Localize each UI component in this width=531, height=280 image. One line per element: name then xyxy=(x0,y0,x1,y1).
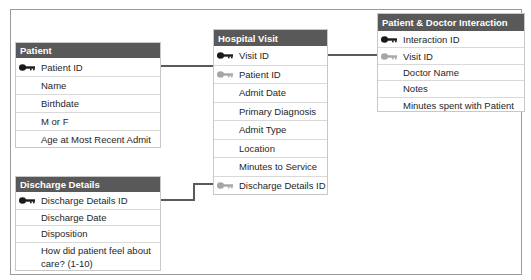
field-row[interactable]: Primary Diagnosis xyxy=(214,102,327,121)
foreign-key-icon xyxy=(214,71,236,78)
field-row[interactable]: Interaction ID xyxy=(378,31,524,47)
field-row[interactable]: Birthdate xyxy=(16,94,160,112)
primary-key-icon xyxy=(16,197,38,204)
field-row[interactable]: M or F xyxy=(16,112,160,130)
field-row[interactable]: Discharge Details ID xyxy=(16,192,160,209)
field-name: Disposition xyxy=(38,227,87,240)
field-row[interactable]: Location xyxy=(214,139,327,158)
field-row[interactable]: Minutes to Service xyxy=(214,157,327,176)
field-name: Minutes to Service xyxy=(236,160,317,173)
connector-patient-to-visit xyxy=(161,65,213,67)
field-row[interactable]: Discharge Date xyxy=(16,209,160,226)
field-name: Patient ID xyxy=(38,61,83,74)
field-row[interactable]: Admit Date xyxy=(214,83,327,102)
field-name: Admit Date xyxy=(236,86,286,99)
field-row[interactable]: Visit ID xyxy=(214,46,327,65)
field-name: M or F xyxy=(38,115,68,128)
field-row[interactable]: Name xyxy=(16,76,160,94)
table-patient[interactable]: Patient Patient ID Name Birthdate M or F… xyxy=(15,42,161,148)
field-name: Visit ID xyxy=(400,50,433,63)
table-title: Hospital Visit xyxy=(214,30,327,46)
primary-key-icon xyxy=(378,36,400,43)
field-name: How did patient feel about care? (1-10) xyxy=(38,244,156,270)
field-name: Location xyxy=(236,142,275,155)
field-name: Doctor Name xyxy=(400,66,459,79)
foreign-key-icon xyxy=(378,53,400,60)
table-title: Patient xyxy=(16,43,160,58)
field-name: Primary Diagnosis xyxy=(236,105,316,118)
field-name: Patient ID xyxy=(236,68,281,81)
field-row[interactable]: Patient ID xyxy=(214,65,327,84)
field-name: Discharge Details ID xyxy=(236,179,326,192)
field-name: Notes xyxy=(400,82,428,95)
field-row[interactable]: Minutes spent with Patient xyxy=(378,97,524,113)
field-name: Discharge Details ID xyxy=(38,194,128,207)
connector-discharge-to-visit-v xyxy=(193,183,195,201)
table-title: Discharge Details xyxy=(16,177,160,192)
foreign-key-icon xyxy=(214,182,236,189)
field-name: Discharge Date xyxy=(38,211,106,224)
field-row[interactable]: How did patient feel about care? (1-10) xyxy=(16,242,160,272)
primary-key-icon xyxy=(16,64,38,71)
table-patient-doctor-interaction[interactable]: Patient & Doctor Interaction Interaction… xyxy=(377,13,525,112)
field-row[interactable]: Disposition xyxy=(16,225,160,242)
field-row[interactable]: Admit Type xyxy=(214,120,327,139)
field-name: Age at Most Recent Admit xyxy=(38,133,151,146)
field-name: Minutes spent with Patient xyxy=(400,99,514,112)
field-row[interactable]: Notes xyxy=(378,80,524,96)
field-name: Admit Type xyxy=(236,123,286,136)
connector-discharge-to-visit-h2 xyxy=(193,183,213,185)
connector-visit-to-interaction xyxy=(328,54,377,56)
table-discharge-details[interactable]: Discharge Details Discharge Details ID D… xyxy=(15,176,161,271)
field-row[interactable]: Age at Most Recent Admit xyxy=(16,130,160,148)
field-name: Visit ID xyxy=(236,49,269,62)
field-name: Name xyxy=(38,79,66,92)
table-hospital-visit[interactable]: Hospital Visit Visit ID Patient ID Admit… xyxy=(213,29,328,195)
primary-key-icon xyxy=(214,52,236,59)
field-name: Interaction ID xyxy=(400,33,460,46)
table-title: Patient & Doctor Interaction xyxy=(378,14,524,31)
field-row[interactable]: Patient ID xyxy=(16,58,160,76)
field-name: Birthdate xyxy=(38,97,79,110)
connector-discharge-to-visit-h1 xyxy=(161,199,195,201)
field-row[interactable]: Doctor Name xyxy=(378,64,524,80)
field-row[interactable]: Discharge Details ID xyxy=(214,176,327,195)
field-row[interactable]: Visit ID xyxy=(378,47,524,63)
